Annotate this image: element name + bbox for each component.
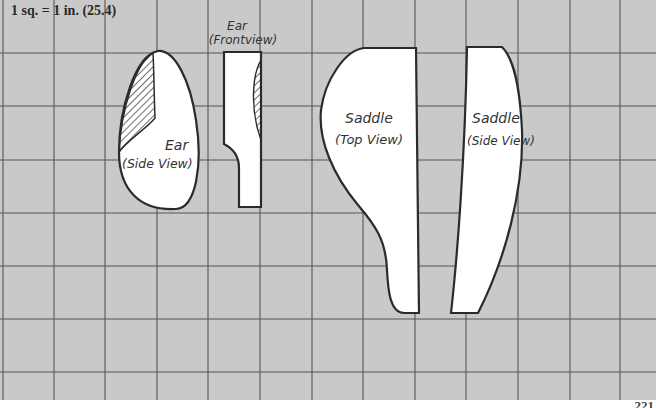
pattern-drawing: Ear (Side View) Ear (Frontview) Saddle (… [0,0,656,408]
page-number: 221 [635,401,655,408]
ear-front-label-view: (Frontview) [209,33,277,47]
ear-front-view-shape: Ear (Frontview) [209,19,277,207]
saddle-side-label-title: Saddle [472,110,520,126]
saddle-top-view-shape: Saddle (Top View) [321,48,419,313]
ear-front-label-title: Ear [227,19,248,33]
grid-lines [0,0,656,400]
ear-side-view-shape: Ear (Side View) [119,51,199,209]
ear-side-label-view: (Side View) [122,156,193,171]
saddle-side-view-shape: Saddle (Side View) [451,47,535,313]
saddle-top-label-title: Saddle [345,110,393,126]
scale-legend: 1 sq. = 1 in. (25.4) [11,3,116,19]
ear-side-label-title: Ear [165,137,189,153]
saddle-top-label-view: (Top View) [335,132,403,147]
saddle-side-label-view: (Side View) [467,134,535,148]
